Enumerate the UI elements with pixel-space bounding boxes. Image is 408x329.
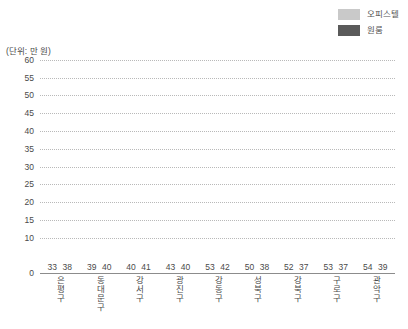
y-axis-tick-label: 55 — [25, 73, 34, 83]
x-axis-label-cell: 강북구 — [277, 276, 316, 326]
bar-value-label: 40 — [102, 262, 111, 272]
bar-value-label: 40 — [126, 262, 135, 272]
bar-value-label: 33 — [47, 262, 56, 272]
legend-item-label: 원룸 — [367, 25, 383, 36]
bar-group: 3940 — [79, 60, 118, 273]
bar-value-label: 43 — [166, 262, 175, 272]
officetel-swatch — [338, 9, 360, 20]
y-axis-tick-label: 45 — [25, 108, 34, 118]
x-axis-tick-label: 동대문구 — [95, 276, 104, 312]
bar-group: 5439 — [356, 60, 395, 273]
x-axis-label-cell: 광진구 — [158, 276, 197, 326]
bar-value-label: 37 — [339, 262, 348, 272]
y-axis-tick-label: 20 — [25, 197, 34, 207]
x-axis-label-cell: 성북구 — [237, 276, 276, 326]
x-axis-label-cell: 관악구 — [356, 276, 395, 326]
y-axis-tick-label: 60 — [25, 55, 34, 65]
bar-group: 5237 — [277, 60, 316, 273]
bar-value-label: 53 — [324, 262, 333, 272]
bar-group: 4041 — [119, 60, 158, 273]
bar-group: 5038 — [237, 60, 276, 273]
y-axis-tick-label: 10 — [25, 233, 34, 243]
y-axis-tick-label: 30 — [25, 162, 34, 172]
chart-legend: 오피스텔 원룸 — [338, 9, 399, 36]
bar-value-label: 52 — [284, 262, 293, 272]
y-axis-tick-label: 0 — [29, 268, 34, 278]
legend-item-label: 오피스텔 — [367, 9, 399, 20]
bar-value-label: 39 — [87, 262, 96, 272]
oneroom-swatch — [338, 25, 360, 36]
bar-value-label: 50 — [245, 262, 254, 272]
x-axis-label-cell: 강동구 — [198, 276, 237, 326]
x-axis-label-cell: 은평구 — [40, 276, 79, 326]
y-axis-tick-label: 25 — [25, 179, 34, 189]
plot-area: 60555045403530252015100 3338394040414340… — [40, 60, 395, 273]
bar-value-label: 39 — [378, 262, 387, 272]
legend-item-officetel: 오피스텔 — [338, 9, 399, 20]
x-axis-labels: 은평구동대문구강서구광진구강동구성북구강북구구로구관악구 — [40, 276, 395, 326]
x-axis-tick-label: 은평구 — [55, 276, 64, 303]
bar-value-label: 38 — [62, 262, 71, 272]
bar-value-label: 40 — [181, 262, 190, 272]
bar-value-label: 42 — [220, 262, 229, 272]
x-axis-tick-label: 광진구 — [174, 276, 183, 303]
bar-value-label: 38 — [260, 262, 269, 272]
y-axis-tick-label: 40 — [25, 126, 34, 136]
bar-group: 3338 — [40, 60, 79, 273]
bar-value-label: 41 — [141, 262, 150, 272]
bar-groups: 333839404041434053425038523753375439 — [40, 60, 395, 273]
axis-baseline — [40, 273, 395, 274]
x-axis-label-cell: 구로구 — [316, 276, 355, 326]
bar-group: 4340 — [158, 60, 197, 273]
x-axis-tick-label: 성북구 — [252, 276, 261, 303]
legend-item-oneroom: 원룸 — [338, 25, 399, 36]
bar-value-label: 37 — [299, 262, 308, 272]
y-axis-tick-label: 15 — [25, 215, 34, 225]
y-axis-tick-label: 50 — [25, 90, 34, 100]
bar-group: 5342 — [198, 60, 237, 273]
x-axis-tick-label: 구로구 — [331, 276, 340, 303]
x-axis-label-cell: 동대문구 — [79, 276, 118, 326]
x-axis-tick-label: 관악구 — [371, 276, 380, 303]
x-axis-label-cell: 강서구 — [119, 276, 158, 326]
y-axis-tick-label: 35 — [25, 144, 34, 154]
bar-group: 5337 — [316, 60, 355, 273]
x-axis-tick-label: 강동구 — [213, 276, 222, 303]
bar-value-label: 53 — [205, 262, 214, 272]
x-axis-tick-label: 강서구 — [134, 276, 143, 303]
bar-value-label: 54 — [363, 262, 372, 272]
x-axis-tick-label: 강북구 — [292, 276, 301, 303]
